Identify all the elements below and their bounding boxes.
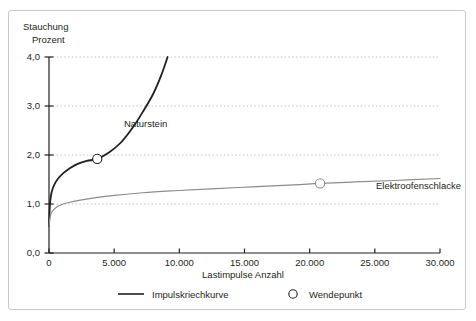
x-tick-label-0: 0 bbox=[46, 257, 51, 268]
y-axis-title-line2: Prozent bbox=[32, 34, 65, 45]
x-axis-title: Lastimpulse Anzahl bbox=[202, 269, 284, 280]
y-axis-title-line1: Stauchung bbox=[23, 21, 68, 32]
series-label-naturstein: Naturstein bbox=[124, 118, 167, 129]
series-curves bbox=[49, 57, 440, 226]
y-axis-tick-labels: 0,01,02,03,04,0 bbox=[27, 51, 40, 258]
legend-label-impulskriechkurve: Impulskriechkurve bbox=[152, 289, 229, 300]
legend-circle-swatch bbox=[289, 290, 297, 298]
legend-label-wendepunkt: Wendepunkt bbox=[309, 289, 363, 300]
y-tick-label-1: 1,0 bbox=[27, 198, 40, 209]
series-curve-naturstein bbox=[49, 57, 168, 226]
x-axis-tick-labels: 05.00010.00015.00020.00025.00030.000 bbox=[46, 257, 454, 268]
wendepunkt-markers bbox=[93, 154, 325, 188]
x-tick-label-2: 10.000 bbox=[165, 257, 194, 268]
x-tick-label-5: 25.000 bbox=[360, 257, 389, 268]
y-tick-label-0: 0,0 bbox=[27, 247, 40, 258]
chart-legend: Impulskriechkurve Wendepunkt bbox=[118, 289, 363, 300]
wendepunkt-marker-1 bbox=[315, 179, 324, 188]
y-tick-label-4: 4,0 bbox=[27, 51, 40, 62]
chart-canvas: 0,01,02,03,04,0 05.00010.00015.00020.000… bbox=[0, 0, 476, 321]
x-tick-label-6: 30.000 bbox=[425, 257, 454, 268]
x-axis-ticks bbox=[49, 249, 440, 254]
y-tick-label-3: 3,0 bbox=[27, 100, 40, 111]
x-tick-label-1: 5.000 bbox=[102, 257, 126, 268]
series-label-elektroofenschlacke: Elektroofenschlacke bbox=[376, 180, 461, 191]
x-tick-label-3: 15.000 bbox=[230, 257, 259, 268]
chart-figure: 0,01,02,03,04,0 05.00010.00015.00020.000… bbox=[0, 0, 476, 321]
y-tick-label-2: 2,0 bbox=[27, 149, 40, 160]
x-tick-label-4: 20.000 bbox=[295, 257, 324, 268]
wendepunkt-marker-0 bbox=[93, 154, 102, 163]
